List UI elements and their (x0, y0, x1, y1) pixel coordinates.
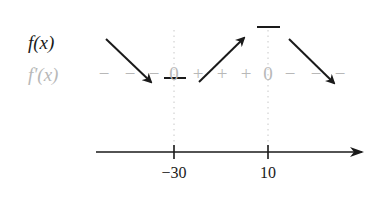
derivative-negative-sign: − (285, 63, 296, 85)
derivative-negative-sign: − (125, 63, 136, 85)
derivative-positive-sign: + (217, 63, 228, 85)
derivative-positive-sign: + (193, 63, 204, 85)
derivative-negative-sign: − (149, 63, 160, 85)
derivative-row-label: f'(x) (28, 64, 58, 86)
derivative-negative-sign: − (335, 63, 346, 85)
function-row-label: f(x) (28, 32, 54, 54)
sign-chart-diagram: f(x) f'(x) −30 10 −−−0+++0−−− (0, 0, 372, 204)
derivative-zero: 0 (263, 63, 273, 85)
tick-label-2: 10 (260, 164, 276, 182)
tick-label-1: −30 (161, 164, 186, 182)
derivative-zero: 0 (169, 63, 179, 85)
derivative-positive-sign: + (241, 63, 252, 85)
derivative-negative-sign: − (99, 63, 110, 85)
derivative-negative-sign: − (311, 63, 322, 85)
